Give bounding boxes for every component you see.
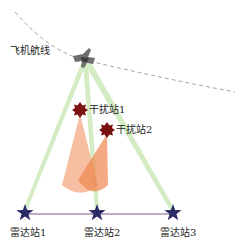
radar-star-icon xyxy=(164,204,181,220)
jammer-star-icon xyxy=(72,102,88,118)
flight-path-label: 飞机航线 xyxy=(10,46,50,56)
jammer-1-label: 干扰站1 xyxy=(89,105,125,115)
radar-3-label: 雷达站3 xyxy=(160,228,196,238)
jamming-cones xyxy=(62,114,108,193)
jammer-star-icon xyxy=(99,122,115,138)
radar-star-icon xyxy=(88,204,105,220)
jammer-2-label: 干扰站2 xyxy=(116,125,152,135)
radar-star-icon xyxy=(16,204,33,220)
radar-1-label: 雷达站1 xyxy=(10,228,46,238)
radar-2-label: 雷达站2 xyxy=(84,228,120,238)
